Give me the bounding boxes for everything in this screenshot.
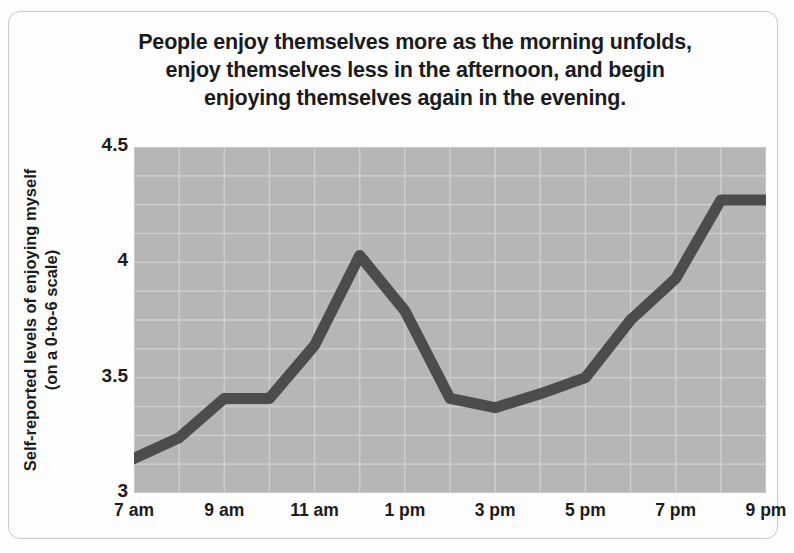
x-axis-ticks: 7 am9 am11 am1 pm3 pm5 pm7 pm9 pm [134, 500, 766, 528]
chart-figure: People enjoy themselves more as the morn… [0, 0, 794, 553]
x-axis-tick-label: 9 am [204, 500, 244, 521]
x-axis-tick-label: 3 pm [475, 500, 516, 521]
y-axis-label-line-2: (on a 0-to-6 scale) [41, 169, 62, 472]
data-line-series [134, 147, 766, 493]
x-axis-tick-label: 7 am [114, 500, 154, 521]
chart-title-line-3: enjoying themselves again in the evening… [70, 84, 760, 112]
y-axis-label: Self-reported levels of enjoying myself … [14, 147, 68, 493]
plot-area [134, 147, 766, 493]
x-axis-tick-label: 9 pm [746, 500, 787, 521]
chart-title: People enjoy themselves more as the morn… [70, 28, 760, 112]
y-axis-label-line-1: Self-reported levels of enjoying myself [20, 169, 41, 472]
chart-title-line-1: People enjoy themselves more as the morn… [70, 28, 760, 56]
y-axis-tick-label: 4 [80, 249, 128, 271]
y-axis-tick-label: 3.5 [80, 365, 128, 387]
y-axis-ticks: 4.543.53 [72, 0, 128, 553]
y-axis-tick-label: 4.5 [80, 134, 128, 156]
x-axis-tick-label: 7 pm [655, 500, 696, 521]
x-axis-tick-label: 1 pm [384, 500, 425, 521]
x-axis-tick-label: 5 pm [565, 500, 606, 521]
chart-title-line-2: enjoy themselves less in the afternoon, … [70, 56, 760, 84]
y-axis-tick-label: 3 [80, 480, 128, 502]
x-axis-tick-label: 11 am [290, 500, 339, 521]
